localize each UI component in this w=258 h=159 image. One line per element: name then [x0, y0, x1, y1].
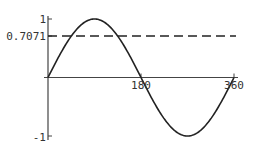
- y-label-1: 1: [39, 13, 46, 26]
- x-label-360: 360: [224, 79, 244, 92]
- x-label-180: 180: [131, 79, 151, 92]
- sine-chart: 1 0.7071 -1 180 360: [0, 0, 258, 159]
- y-label-neg1: -1: [33, 131, 46, 144]
- y-label-0.7071: 0.7071: [6, 30, 46, 43]
